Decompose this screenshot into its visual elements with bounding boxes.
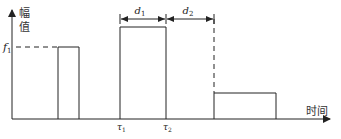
y-axis-label-char-2: 值 — [19, 21, 30, 34]
pulse-3 — [214, 93, 276, 119]
d1-label: d1 — [135, 5, 146, 18]
tau2-label: τ2 — [163, 122, 172, 133]
amplitude-label: f1 — [2, 41, 12, 55]
x-axis-label: 时间 — [306, 105, 328, 118]
pulse-1 — [58, 47, 79, 119]
d2-label: d2 — [183, 5, 194, 18]
y-axis-label-char-1: 幅 — [19, 7, 30, 20]
pulse-diagram: 幅 值 时间 f1 d1 d2 τ1 τ2 — [0, 0, 341, 139]
tau1-label: τ1 — [117, 122, 126, 133]
pulse-2 — [120, 27, 166, 119]
